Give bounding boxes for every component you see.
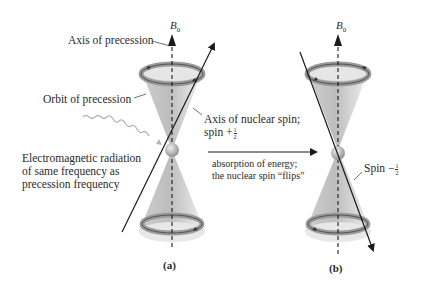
diagram-graphics [0,0,421,286]
b0-label-a: B0 [170,19,180,34]
nmr-spin-flip-diagram: B0 B0 Axis of precession Orbit of preces… [0,0,421,286]
fraction-one-half: 12 [395,163,398,176]
em-wave-icon [83,116,149,137]
em-radiation-label: Electromagnetic radiation of same freque… [22,152,141,191]
b0-arrow-icon-a [168,34,176,46]
nucleus-sphere-b [331,146,345,160]
spin-minus-half-label: Spin −12 [364,162,398,176]
absorption-of-energy-label: absorption of energy; the nuclear spin “… [212,158,304,182]
panel-label-b: (b) [329,262,342,274]
panel-a-graphics [83,34,214,250]
axis-of-nuclear-spin-label: Axis of nuclear spin; spin +12 [204,113,300,140]
leader-nuclear-spin [193,108,202,115]
leader-spin-minus [354,172,362,180]
fraction-one-half: 12 [234,127,237,140]
panel-label-a: (a) [163,259,176,271]
b0-label-b: B0 [336,19,346,34]
nucleus-sphere-a [165,143,179,157]
b0-arrow-icon-b [334,34,342,46]
leader-orbit-precession [134,94,146,98]
panel-b-graphics [300,34,373,256]
leader-axis-precession [152,41,170,46]
orbit-of-precession-label: Orbit of precession [43,93,131,106]
axis-of-precession-label: Axis of precession [68,34,154,47]
